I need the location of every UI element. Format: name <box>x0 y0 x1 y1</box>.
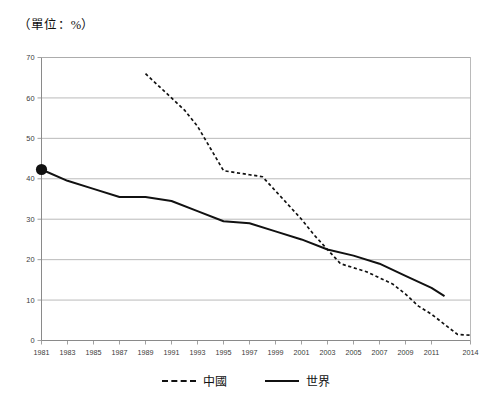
x-tick-label: 2011 <box>424 348 439 357</box>
y-tick-labels-group: 010203040506070 <box>26 53 34 345</box>
legend-item-china[interactable]: 中國 <box>162 372 227 390</box>
x-tick-label: 1991 <box>164 348 180 357</box>
start-marker-group <box>36 164 47 175</box>
legend-swatch-dashed-icon <box>162 380 196 382</box>
x-tick-label: 2014 <box>463 348 479 357</box>
y-tick-label: 10 <box>26 296 34 305</box>
series-line-china <box>146 74 471 336</box>
x-tick-label: 1983 <box>60 348 76 357</box>
y-tick-label: 40 <box>26 174 34 183</box>
legend-swatch-solid-icon <box>265 380 299 382</box>
x-tick-marks-group <box>42 341 471 345</box>
gridlines-group <box>42 58 471 301</box>
legend-label-world: 世界 <box>306 372 330 390</box>
chart-legend: 中國 世界 <box>0 372 492 390</box>
legend-item-world[interactable]: 世界 <box>265 372 330 390</box>
x-tick-labels-group: 1981198319851987198919911993199519971999… <box>34 348 479 357</box>
x-tick-label: 1995 <box>216 348 232 357</box>
x-tick-label: 2003 <box>320 348 336 357</box>
y-tick-marks-group <box>38 58 42 341</box>
y-tick-label: 70 <box>26 53 34 62</box>
x-tick-label: 2007 <box>372 348 388 357</box>
x-tick-label: 1993 <box>190 348 206 357</box>
start-point-marker <box>36 164 47 175</box>
x-tick-label: 1999 <box>268 348 284 357</box>
x-tick-label: 1989 <box>138 348 154 357</box>
y-tick-label: 30 <box>26 215 34 224</box>
x-tick-label: 1987 <box>112 348 128 357</box>
x-tick-label: 2009 <box>398 348 414 357</box>
axis-frame-group <box>42 58 471 341</box>
y-tick-label: 20 <box>26 255 34 264</box>
x-tick-label: 1981 <box>34 348 50 357</box>
chart-canvas: 010203040506070 198119831985198719891991… <box>0 0 492 407</box>
x-tick-label: 2005 <box>346 348 362 357</box>
y-tick-label: 60 <box>26 94 34 103</box>
chart-figure: （單位：%） 010203040506070 19811983198519871… <box>0 0 492 407</box>
x-tick-label: 1997 <box>242 348 258 357</box>
series-line-world <box>42 169 445 296</box>
x-tick-label: 1985 <box>86 348 102 357</box>
series-paths-group <box>42 74 471 336</box>
x-tick-label: 2001 <box>294 348 310 357</box>
y-tick-label: 0 <box>30 336 34 345</box>
y-tick-label: 50 <box>26 134 34 143</box>
legend-label-china: 中國 <box>203 372 227 390</box>
